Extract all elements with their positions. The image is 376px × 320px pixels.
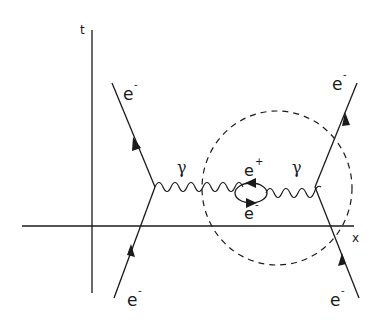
svg-text:e: e <box>330 290 340 310</box>
svg-text:-: - <box>134 79 138 90</box>
photon-line-right <box>266 186 321 197</box>
electron-line-right-out <box>315 83 357 187</box>
svg-text:-: - <box>341 285 345 296</box>
axes <box>22 30 354 293</box>
electron-line-left-out <box>112 83 155 187</box>
photon-line-left <box>155 183 243 192</box>
label-incoming-left: e - <box>127 285 142 310</box>
dashed-region-circle <box>202 111 352 265</box>
feynman-diagram: t x e - e - e - e - γ γ e + e - <box>0 0 376 320</box>
label-photon-left: γ <box>177 158 187 177</box>
svg-text:-: - <box>138 285 142 296</box>
arrow-icon-right-out <box>342 112 350 126</box>
label-outgoing-left: e - <box>123 79 138 104</box>
svg-text:e: e <box>244 204 254 223</box>
arrow-icon-right-in <box>338 253 346 266</box>
svg-text:+: + <box>255 156 263 167</box>
svg-text:e: e <box>332 74 342 94</box>
label-photon-right: γ <box>292 158 302 177</box>
fermion-loop <box>235 183 267 203</box>
svg-text:-: - <box>255 199 259 210</box>
svg-text:-: - <box>343 69 347 80</box>
space-axis-label: x <box>352 231 359 245</box>
label-incoming-right: e - <box>330 285 345 310</box>
svg-text:e: e <box>123 84 133 104</box>
label-outgoing-right: e - <box>332 69 347 94</box>
svg-text:e: e <box>244 161 254 180</box>
svg-text:e: e <box>127 290 137 310</box>
label-loop-positron: e + <box>244 156 263 180</box>
time-axis-label: t <box>80 23 85 37</box>
electron-line-left-in <box>114 187 155 298</box>
